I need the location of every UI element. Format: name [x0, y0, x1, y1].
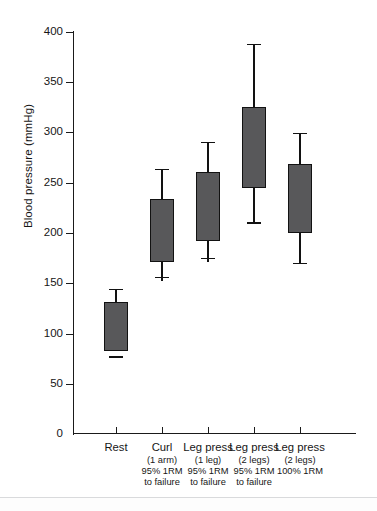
whisker-cap-high-rest: [109, 289, 123, 291]
y-tick-100: [66, 334, 74, 335]
y-tick-label-400: 400: [17, 26, 63, 38]
y-tick-label-50: 50: [17, 378, 63, 390]
y-tick-label-150: 150: [17, 277, 63, 289]
x-tick-3: [254, 427, 255, 434]
whisker-cap-low-curl: [155, 277, 169, 279]
whisker-cap-high-legpress-2legs-95: [247, 44, 261, 46]
y-tick-label-350: 350: [17, 76, 63, 88]
x-category-label-legpress-2legs-100: Leg press (2 legs) 100% 1RM: [269, 441, 331, 477]
y-tick-350: [66, 82, 74, 83]
y-tick-label-0: 0: [17, 428, 63, 440]
x-category-label-legpress-2legs-100-line-2: 100% 1RM: [269, 466, 331, 477]
x-category-label-legpress-2legs-100-line-0: Leg press: [269, 441, 331, 454]
whisker-cap-low-legpress-1leg: [201, 258, 215, 260]
whisker-cap-low-legpress-2legs-100: [293, 263, 307, 265]
whisker-cap-high-legpress-1leg: [201, 142, 215, 144]
box-rest: [104, 302, 129, 351]
box-legpress-2legs-95: [242, 107, 267, 187]
scan-artifact-line: [0, 497, 377, 498]
box-legpress-2legs-100: [288, 164, 313, 233]
whisker-cap-low-legpress-2legs-95: [247, 222, 261, 224]
x-tick-4: [300, 427, 301, 434]
y-tick-label-200: 200: [17, 227, 63, 239]
x-tick-2: [208, 427, 209, 434]
whisker-cap-low-rest: [109, 356, 123, 358]
y-tick-250: [66, 183, 74, 184]
y-tick-400: [66, 32, 74, 33]
whisker-cap-high-curl: [155, 169, 169, 171]
y-tick-300: [66, 132, 74, 133]
y-tick-150: [66, 283, 74, 284]
x-tick-0: [116, 427, 117, 434]
y-tick-label-300: 300: [17, 126, 63, 138]
scan-artifact-tint: [0, 498, 377, 511]
y-tick-200: [66, 233, 74, 234]
whisker-cap-high-legpress-2legs-100: [293, 133, 307, 135]
x-category-label-legpress-2legs-100-line-1: (2 legs): [269, 455, 331, 466]
y-tick-label-100: 100: [17, 328, 63, 340]
y-tick-50: [66, 384, 74, 385]
blood-pressure-box-chart: Blood pressure (mmHg) 400 350 300 250 20…: [0, 0, 377, 511]
box-curl: [150, 199, 175, 262]
box-legpress-1leg: [196, 172, 221, 241]
x-tick-1: [162, 427, 163, 434]
x-category-label-legpress-2legs-95-line-3: to failure: [223, 477, 285, 488]
y-tick-label-250: 250: [17, 177, 63, 189]
